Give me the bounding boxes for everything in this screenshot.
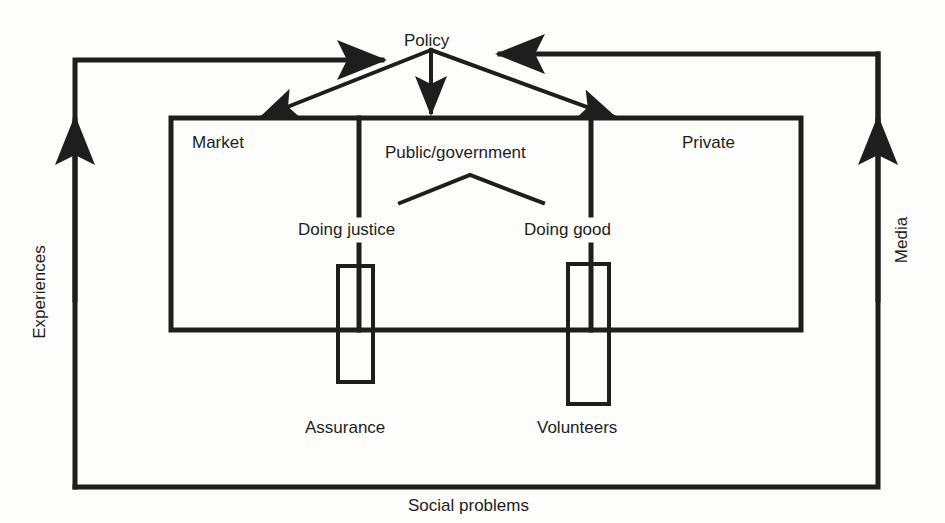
doing-good-label: Doing good [524, 220, 611, 240]
diagram-canvas [0, 0, 945, 523]
doing-justice-label: Doing justice [298, 220, 395, 240]
market-label: Market [192, 133, 244, 153]
private-label: Private [682, 133, 735, 153]
assurance-label: Assurance [305, 418, 385, 438]
media-label: Media [892, 210, 912, 270]
public-government-label: Public/government [385, 143, 526, 163]
policy-label: Policy [404, 31, 449, 51]
policy-to-private-arrow [431, 50, 614, 117]
public-branch-chevron [400, 175, 543, 203]
volunteers-label: Volunteers [537, 418, 617, 438]
experiences-label: Experiences [30, 242, 50, 342]
social-problems-label: Social problems [408, 496, 529, 516]
assurance-box [338, 266, 373, 382]
